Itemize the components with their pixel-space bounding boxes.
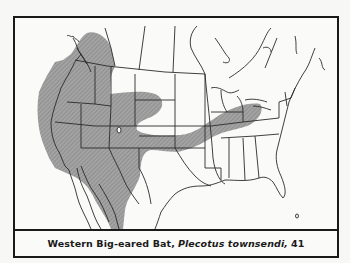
species-range [38,32,262,229]
range-map [15,18,337,229]
map-caption: Western Big-eared Bat, Plecotus townsend… [15,231,337,256]
range-map-figure: Western Big-eared Bat, Plecotus townsend… [13,16,339,258]
scientific-name: Plecotus townsendi, [178,238,288,249]
common-name: Western Big-eared Bat, [48,238,175,249]
north-america-map [15,18,337,229]
species-number: 41 [291,238,304,249]
